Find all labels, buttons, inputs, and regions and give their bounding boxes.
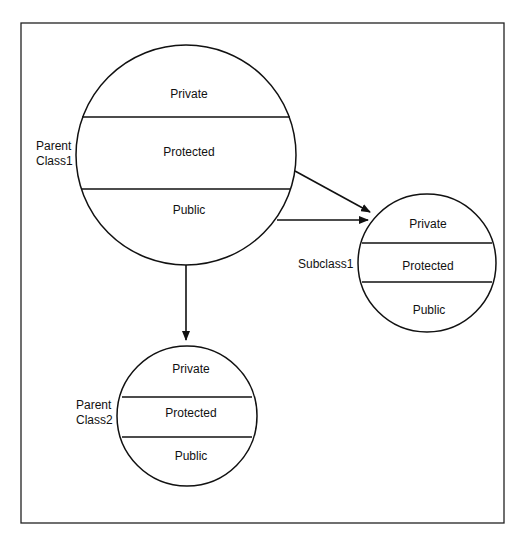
class-name-line: Parent	[36, 139, 73, 154]
section-public: Public	[175, 449, 208, 464]
arrow-class1-to-subclass1-diagonal	[295, 171, 370, 212]
class-name-subclass1: Subclass1	[298, 257, 353, 272]
section-private: Private	[172, 362, 209, 377]
section-public: Public	[173, 203, 206, 218]
class-name-parent-class2: Parent Class2	[76, 398, 113, 428]
class-name-line: Class2	[76, 413, 113, 428]
section-protected: Protected	[402, 259, 453, 274]
section-protected: Protected	[163, 145, 214, 160]
class-name-line: Class1	[36, 154, 73, 169]
section-protected: Protected	[165, 406, 216, 421]
class-name-line: Parent	[76, 398, 113, 413]
section-public: Public	[413, 303, 446, 318]
class-name-parent-class1: Parent Class1	[36, 139, 73, 169]
section-private: Private	[170, 87, 207, 102]
section-private: Private	[409, 217, 446, 232]
